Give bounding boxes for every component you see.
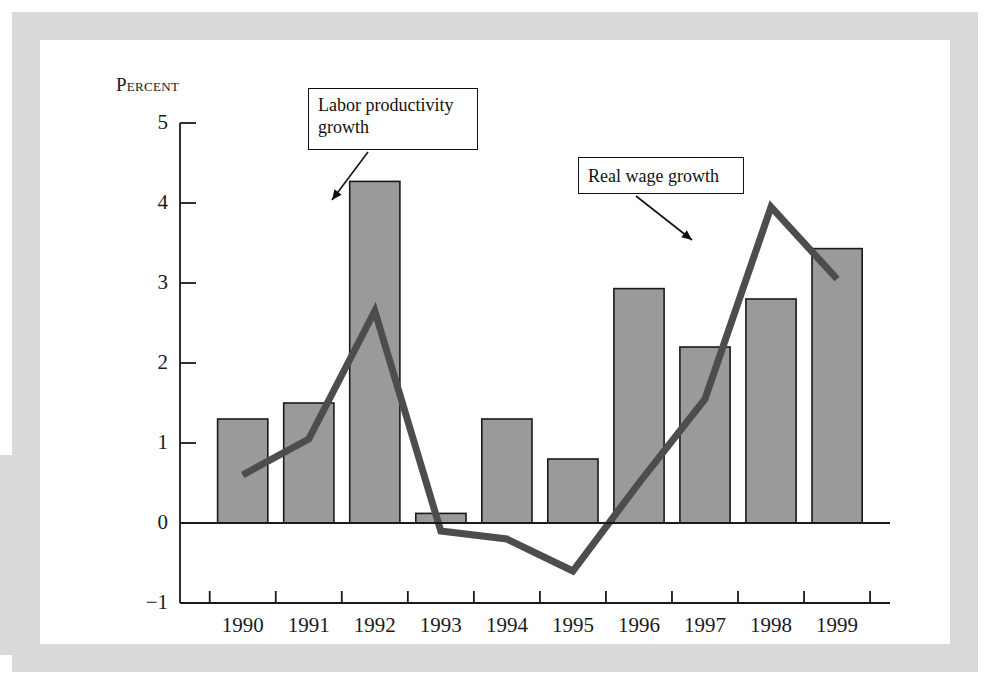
x-tick-label-1992: 1992: [340, 615, 410, 636]
bar-1999: [812, 249, 862, 523]
y-tick-label-4: 4: [128, 192, 168, 213]
y-tick-label--1: −1: [128, 592, 168, 613]
page-edge-tab: [0, 455, 40, 655]
leader-labor-productivity-head: [332, 189, 342, 200]
x-tick-label-1997: 1997: [670, 615, 740, 636]
y-tick-label-1: 1: [128, 432, 168, 453]
chart-canvas: [40, 40, 950, 644]
bar-1991: [284, 403, 334, 523]
y-tick-label-0: 0: [128, 512, 168, 533]
x-tick-label-1999: 1999: [802, 615, 872, 636]
x-tick-label-1995: 1995: [538, 615, 608, 636]
callout-labor-productivity: Labor productivity growth: [308, 88, 478, 150]
y-axis-title: Percent: [116, 75, 179, 94]
callout-real-wage: Real wage growth: [578, 157, 744, 194]
x-tick-label-1993: 1993: [406, 615, 476, 636]
x-tick-label-1990: 1990: [208, 615, 278, 636]
leader-real-wage: [636, 196, 692, 240]
x-tick-label-1994: 1994: [472, 615, 542, 636]
x-tick-label-1996: 1996: [604, 615, 674, 636]
bar-1990: [218, 419, 268, 523]
bar-1997: [680, 347, 730, 523]
leader-real-wage-head: [681, 230, 692, 240]
y-tick-label-3: 3: [128, 272, 168, 293]
x-tick-label-1991: 1991: [274, 615, 344, 636]
page-frame-top: [12, 12, 978, 40]
bar-1998: [746, 299, 796, 523]
x-tick-label-1998: 1998: [736, 615, 806, 636]
page-frame-right: [950, 12, 978, 672]
y-tick-label-2: 2: [128, 352, 168, 373]
bar-1995: [548, 459, 598, 523]
scanned-page: Percent −1012345 19901991199219931994199…: [0, 0, 1002, 695]
figure-plate: Percent −1012345 19901991199219931994199…: [40, 40, 950, 644]
bar-1994: [482, 419, 532, 523]
page-frame-bottom: [12, 644, 978, 672]
y-tick-label-5: 5: [128, 112, 168, 133]
